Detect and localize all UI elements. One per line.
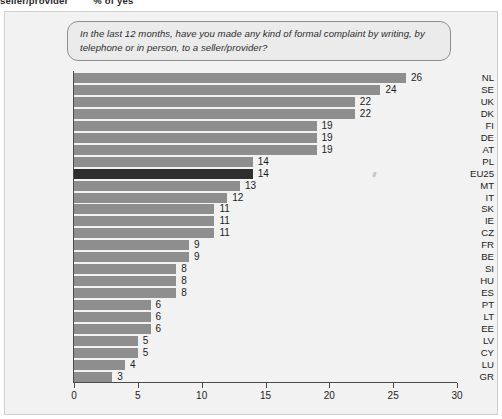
- category-label: DK: [430, 108, 499, 120]
- bar-value-label: 19: [322, 120, 333, 132]
- category-label: IE: [430, 215, 499, 227]
- bar-value-label: 3: [117, 371, 123, 383]
- bar-value-label: 8: [181, 263, 187, 275]
- category-label: FI: [430, 120, 499, 132]
- x-axis-tick-label: 5: [123, 390, 153, 401]
- bar-value-label: 22: [360, 108, 371, 120]
- bar: [74, 133, 317, 143]
- category-label: LU: [430, 359, 499, 371]
- category-label: GR: [430, 371, 499, 383]
- top-caption-left: seller/provider: [0, 0, 68, 6]
- bar: [74, 372, 112, 382]
- bar-value-label: 11: [219, 215, 229, 227]
- bar-value-label: 26: [411, 72, 422, 84]
- x-axis-tick-label: 10: [187, 390, 217, 401]
- bar-row: HU8: [5, 275, 499, 287]
- category-label: CY: [430, 347, 499, 359]
- x-axis-tick: [393, 383, 394, 388]
- bar-value-label: 6: [156, 323, 162, 335]
- bar: [74, 169, 253, 179]
- category-label: ES: [430, 287, 499, 299]
- x-axis-tick: [266, 383, 267, 388]
- bar-row: IT12: [5, 192, 499, 204]
- bar: [74, 360, 125, 370]
- bar: [74, 264, 176, 274]
- bar-row: CY5: [5, 347, 499, 359]
- bar-value-label: 14: [258, 168, 269, 180]
- bar-row: FR9: [5, 239, 499, 251]
- bar-value-label: 11: [219, 227, 229, 239]
- bar-value-label: 24: [385, 84, 396, 96]
- bar-row: MT13: [5, 180, 499, 192]
- bar: [74, 145, 317, 155]
- bar-value-label: 13: [245, 180, 256, 192]
- bar-value-label: 19: [322, 144, 333, 156]
- bar: [74, 181, 240, 191]
- bar: [74, 324, 151, 334]
- category-label: IT: [430, 192, 499, 204]
- bar: [74, 216, 214, 226]
- category-label: SE: [430, 84, 499, 96]
- category-label: PL: [430, 156, 499, 168]
- bar: [74, 252, 189, 262]
- bar-row: DK22: [5, 108, 499, 120]
- bar-row: PT6: [5, 299, 499, 311]
- bar: [74, 336, 138, 346]
- category-label: LV: [430, 335, 499, 347]
- bar-value-label: 8: [181, 275, 187, 287]
- category-label: LT: [430, 311, 499, 323]
- x-axis-tick-label: 0: [59, 390, 89, 401]
- bar-row: LT6: [5, 311, 499, 323]
- bar-value-label: 22: [360, 96, 371, 108]
- bar-row: FI19: [5, 120, 499, 132]
- bar: [74, 288, 176, 298]
- bar-value-label: 9: [194, 251, 200, 263]
- x-axis-tick-label: 15: [251, 390, 281, 401]
- x-axis-tick: [457, 383, 458, 388]
- bar-row: SE24: [5, 84, 499, 96]
- bar: [74, 109, 355, 119]
- bar-value-label: 11: [219, 203, 229, 215]
- category-label: SK: [430, 203, 499, 215]
- bar: [74, 193, 227, 203]
- bar-row: AT19: [5, 144, 499, 156]
- bar: [74, 121, 317, 131]
- bar-value-label: 6: [156, 311, 162, 323]
- bar-row: EE6: [5, 323, 499, 335]
- bar-row: SK11: [5, 203, 499, 215]
- category-label: HU: [430, 275, 499, 287]
- bar-row: LU4: [5, 359, 499, 371]
- bar-value-label: 8: [181, 287, 187, 299]
- bar: [74, 73, 406, 83]
- category-label: AT: [430, 144, 499, 156]
- category-label: MT: [430, 180, 499, 192]
- bar-row: UK22: [5, 96, 499, 108]
- bar: [74, 157, 253, 167]
- category-label: DE: [430, 132, 499, 144]
- bar: [74, 300, 151, 310]
- bar: [74, 312, 151, 322]
- category-label: BE: [430, 251, 499, 263]
- cropped-top-caption: seller/provider % of yes: [0, 0, 502, 9]
- category-label: NL: [430, 72, 499, 84]
- bar-value-label: 19: [322, 132, 333, 144]
- bar-value-label: 12: [232, 192, 243, 204]
- bar-value-label: 5: [143, 335, 149, 347]
- bar-row: SI8: [5, 263, 499, 275]
- bar-row: EU2514: [5, 168, 499, 180]
- bar: [74, 276, 176, 286]
- bar-row: CZ11: [5, 227, 499, 239]
- bar-chart-plot: 051015202530 NL26SE24UK22DK22FI19DE19AT1…: [5, 12, 499, 416]
- category-label: SI: [430, 263, 499, 275]
- bar: [74, 204, 214, 214]
- category-label: EU25: [430, 168, 499, 180]
- bar-value-label: 14: [258, 156, 269, 168]
- bar-row: PL14: [5, 156, 499, 168]
- bar-row: NL26: [5, 72, 499, 84]
- bar-row: GR3: [5, 371, 499, 383]
- x-axis-tick: [329, 383, 330, 388]
- bar-value-label: 6: [156, 299, 162, 311]
- bar: [74, 85, 380, 95]
- top-caption-right: % of yes: [93, 0, 133, 6]
- x-axis-tick: [138, 383, 139, 388]
